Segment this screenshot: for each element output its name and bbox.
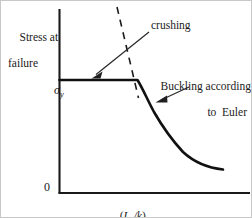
annotation-crushing-label: crushing	[151, 19, 191, 32]
x-axis-label-paren-close: )	[142, 210, 146, 218]
dashed-euler-extrapolation-line	[117, 7, 139, 98]
annotation-buckling-euler-line1: Buckling according	[161, 80, 251, 92]
y-axis-label-line2: failure	[8, 57, 58, 70]
annotation-buckling-euler-line2: to Euler	[149, 106, 247, 119]
crushing-arrow-head	[92, 72, 103, 79]
crushing-arrow-line	[96, 32, 149, 75]
y-axis-label-line1: Stress at	[20, 31, 59, 43]
annotation-buckling-euler-label: Buckling according to Euler	[149, 67, 247, 144]
y-tick-sigma-y: σy	[42, 71, 64, 113]
y-tick-zero: 0	[44, 181, 50, 194]
sigma-subscript: y	[60, 89, 64, 99]
x-axis-label: (Le/k)	[1, 197, 252, 218]
stress-at-failure-chart: Stress at failure σy 0 (Le/k) crushing B…	[0, 0, 252, 218]
